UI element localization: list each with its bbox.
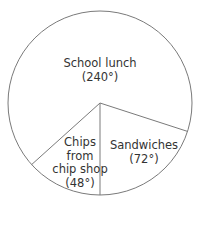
- label-school-lunch-name: School lunch: [63, 57, 136, 71]
- label-school-lunch: School lunch (240°): [63, 57, 136, 84]
- label-chips-name-line3: chip shop: [52, 163, 107, 177]
- label-sandwiches-name: Sandwiches: [110, 139, 178, 153]
- label-chips: Chips from chip shop (48°): [52, 136, 107, 190]
- label-school-lunch-value: (240°): [63, 71, 136, 85]
- label-chips-name-line2: from: [52, 150, 107, 164]
- label-chips-name-line1: Chips: [52, 136, 107, 150]
- label-sandwiches: Sandwiches (72°): [110, 139, 178, 166]
- label-chips-value: (48°): [52, 177, 107, 191]
- label-sandwiches-value: (72°): [110, 153, 178, 167]
